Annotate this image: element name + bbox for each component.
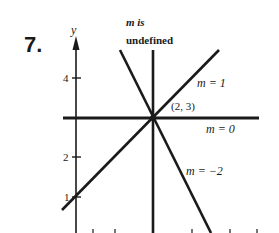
label-m-1: m = 1 — [197, 76, 226, 90]
y-tick-4: 4 — [63, 72, 69, 84]
point-label: (2, 3) — [171, 100, 195, 113]
label-m-undefined-line2: undefined — [126, 34, 173, 46]
y-axis-label: y — [70, 23, 77, 37]
label-m-undefined-line1: m is — [126, 16, 145, 28]
y-axis-arrow-icon — [73, 36, 80, 50]
label-m-neg2: m = −2 — [186, 164, 223, 178]
problem-number: 7. — [24, 32, 42, 57]
y-tick-1: 1 — [64, 191, 70, 203]
x-axis-ticks-partial — [93, 229, 257, 233]
y-ticks: 4 2 1 — [63, 72, 81, 203]
line-m-1 — [62, 50, 219, 210]
slope-lines-figure: 7. y 4 2 1 (2, 3) m is undefined m = 1 m… — [0, 0, 279, 233]
intersection-point — [150, 115, 156, 121]
label-m-0: m = 0 — [206, 122, 235, 136]
y-tick-2: 2 — [63, 151, 69, 163]
